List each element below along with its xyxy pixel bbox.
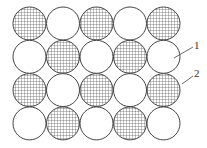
hatched-circle [13, 7, 46, 40]
hatched-circle [47, 107, 80, 140]
hatched-circle [80, 7, 113, 40]
hatched-circle [13, 74, 46, 107]
hatched-circle [47, 40, 80, 73]
white-circle [47, 74, 80, 107]
label-2: 2 [194, 68, 200, 79]
white-circle [147, 40, 180, 73]
white-circle [47, 7, 80, 40]
hatched-circle [80, 74, 113, 107]
white-circle [13, 40, 46, 73]
white-circle [80, 107, 113, 140]
white-circle [13, 107, 46, 140]
white-circle [114, 7, 147, 40]
hatched-circle [147, 7, 180, 40]
hatched-circle [114, 40, 147, 73]
circle-grid-diagram [0, 0, 207, 148]
white-circle [80, 40, 113, 73]
hatched-circle [147, 74, 180, 107]
white-circle [114, 74, 147, 107]
hatched-circle [114, 107, 147, 140]
leader-line-2 [182, 76, 193, 84]
label-1: 1 [194, 40, 200, 51]
white-circle [147, 107, 180, 140]
